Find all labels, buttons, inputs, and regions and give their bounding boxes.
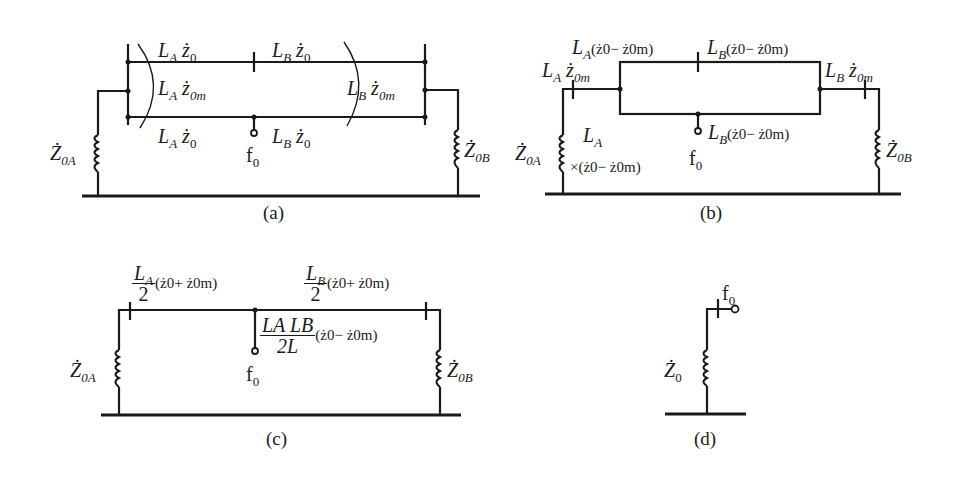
caption-b: (b) [700, 202, 722, 224]
b-label-fault-branch: LB(ż0− ż0m) [708, 122, 789, 142]
d-source-label: Ż0 [664, 360, 682, 380]
a-label-bottom-left: LA ż0 [158, 126, 196, 146]
c-source-left-label: Ż0A [70, 360, 96, 380]
d-fault-label: f0 [722, 283, 735, 303]
b-label-top-left: LA(ż0− ż0m) [572, 37, 653, 57]
c-label-fault-branch: LA LB2L(ż0− ż0m) [260, 315, 378, 356]
a-source-left-label: Ż0A [50, 143, 76, 163]
b-fault-label: f0 [689, 148, 702, 168]
caption-c: (c) [266, 428, 287, 450]
a-label-mid-left: LA ż0m [158, 78, 206, 98]
a-label-top-left: LA ż0 [158, 40, 196, 60]
a-fault-label: f0 [246, 145, 259, 165]
panel-d-wiring [665, 299, 746, 414]
caption-a: (a) [263, 202, 284, 224]
a-label-bottom-right: LB ż0 [272, 126, 310, 146]
b-label-right-branch: LB ż0m [825, 60, 873, 80]
c-fault-label: f0 [246, 364, 259, 384]
c-label-left: LA2(ż0+ ż0m) [132, 263, 217, 304]
b-label-top-right: LB(ż0− ż0m) [707, 37, 788, 57]
c-source-right-label: Ż0B [447, 360, 473, 380]
b-label-left-branch: LA ż0m [542, 60, 590, 80]
b-source-left-label: Ż0A [515, 143, 541, 163]
a-label-top-right: LB ż0 [272, 40, 310, 60]
panel-a-wiring [82, 42, 480, 196]
b-source-right-label: Ż0B [886, 140, 912, 160]
b-label-left-shunt-expr: ×(ż0− ż0m) [570, 160, 641, 175]
a-label-mid-right: LB ż0m [347, 78, 395, 98]
a-source-right-label: Ż0B [464, 140, 490, 160]
circuit-diagram-canvas [0, 0, 969, 478]
c-label-right: LB2(ż0+ ż0m) [304, 263, 389, 304]
caption-d: (d) [694, 428, 716, 450]
b-label-left-shunt: LA [583, 125, 602, 145]
